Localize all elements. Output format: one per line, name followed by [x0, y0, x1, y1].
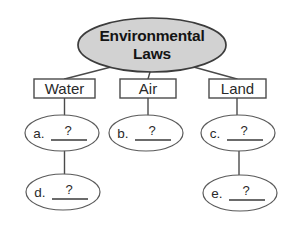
node-root[interactable]: Environmental Laws — [78, 18, 226, 72]
edge-root-to-water — [65, 66, 116, 79]
answer-b-value: ? — [148, 123, 155, 138]
answer-c-value: ? — [240, 123, 247, 138]
edge-root-to-air — [148, 72, 150, 79]
node-category-land[interactable]: Land — [209, 79, 266, 98]
answer-a-letter: a. — [33, 126, 44, 141]
node-answer-d[interactable]: d. ? — [26, 174, 100, 210]
edge-group-answers-to-subanswers — [65, 150, 240, 175]
root-label-line2: Laws — [133, 45, 171, 62]
node-category-air[interactable]: Air — [120, 79, 176, 98]
answer-e-letter: e. — [211, 186, 222, 201]
node-category-water[interactable]: Water — [34, 79, 95, 98]
answer-d-letter: d. — [34, 185, 45, 200]
land-box-label: Land — [221, 80, 254, 97]
answer-c-letter: c. — [210, 126, 221, 141]
edge-root-to-land — [190, 66, 237, 79]
root-label-line1: Environmental — [99, 27, 204, 44]
answer-a-value: ? — [64, 123, 71, 138]
edge-group-categories-to-answers — [65, 98, 238, 116]
answer-b-letter: b. — [117, 126, 128, 141]
answer-d-value: ? — [65, 182, 72, 197]
diagram-canvas: Environmental Laws Water Air Land a. ? — [0, 0, 293, 228]
air-box-label: Air — [139, 80, 157, 97]
node-answer-a[interactable]: a. ? — [25, 115, 99, 151]
concept-map-diagram: Environmental Laws Water Air Land a. ? — [0, 0, 293, 228]
node-answer-b[interactable]: b. ? — [109, 115, 183, 151]
node-answer-e[interactable]: e. ? — [203, 175, 277, 211]
water-box-label: Water — [45, 80, 84, 97]
answer-e-value: ? — [242, 183, 249, 198]
node-answer-c[interactable]: c. ? — [201, 115, 275, 151]
